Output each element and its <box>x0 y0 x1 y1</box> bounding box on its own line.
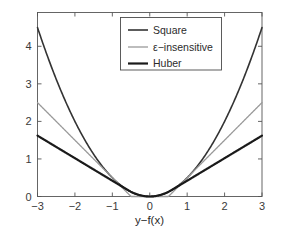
x-tick-label: −2 <box>69 200 82 212</box>
x-tick-label: 3 <box>259 200 265 212</box>
y-tick-label: 4 <box>25 40 31 52</box>
legend-label: ε−insensitive <box>153 41 213 53</box>
legend-label: Square <box>153 24 187 36</box>
y-tick-label: 2 <box>25 115 31 127</box>
line-chart: −3−2−10123 01234 y−f(x) Squareε−insensit… <box>0 0 283 246</box>
x-tick-label: −3 <box>31 200 44 212</box>
x-tick-label: 0 <box>147 200 153 212</box>
x-tick-label: 2 <box>222 200 228 212</box>
chart-legend: Squareε−insensitiveHuber <box>121 18 222 71</box>
x-axis-label: y−f(x) <box>135 214 164 226</box>
legend-label: Huber <box>153 57 182 69</box>
figure-container: −3−2−10123 01234 y−f(x) Squareε−insensit… <box>0 0 283 246</box>
x-tick-label: 1 <box>184 200 190 212</box>
y-tick-label: 3 <box>25 78 31 90</box>
y-tick-label: 0 <box>25 191 31 203</box>
y-tick-label: 1 <box>25 153 31 165</box>
x-tick-label: −1 <box>106 200 119 212</box>
